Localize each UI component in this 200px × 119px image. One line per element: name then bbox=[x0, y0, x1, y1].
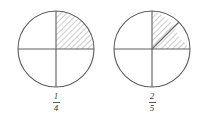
fraction-label-left: 1 4 bbox=[36, 92, 76, 113]
fraction-denominator-right: 5 bbox=[132, 104, 172, 113]
circle-one-quarter bbox=[18, 11, 94, 87]
circle-two-fifths bbox=[114, 11, 190, 87]
fraction-numerator-left: 1 bbox=[36, 92, 76, 101]
fractions-figure: 1 4 2 5 bbox=[0, 0, 200, 119]
fraction-label-right: 2 5 bbox=[132, 92, 172, 113]
fraction-numerator-right: 2 bbox=[132, 92, 172, 101]
fraction-denominator-left: 4 bbox=[36, 104, 76, 113]
